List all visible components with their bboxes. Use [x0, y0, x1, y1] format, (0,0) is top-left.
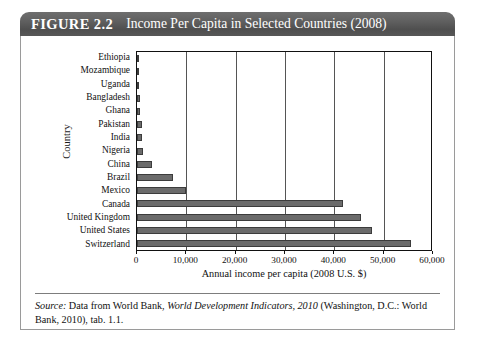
bar-row: [137, 118, 431, 131]
plot-area: [136, 51, 432, 251]
y-axis-label: Brazil: [54, 171, 134, 184]
tick-mark: [136, 251, 137, 254]
tick-mark: [383, 251, 384, 254]
x-axis-tick-label: 30,000: [271, 255, 296, 265]
bar: [137, 174, 173, 181]
y-axis-label: Ghana: [54, 104, 134, 117]
bar-row: [137, 224, 431, 237]
bar-row: [137, 131, 431, 144]
bar: [137, 148, 143, 155]
x-axis-tick-label: 10,000: [173, 255, 198, 265]
source-divider: [35, 293, 440, 294]
y-axis-label: United States: [54, 224, 134, 237]
tick-mark: [333, 251, 334, 254]
y-axis-label: Pakistan: [54, 118, 134, 131]
bar: [137, 108, 140, 115]
bar: [137, 200, 343, 207]
x-axis-ticks: 010,00020,00030,00040,00050,00060,000: [136, 253, 432, 267]
bar-row: [137, 52, 431, 65]
bar-row: [137, 171, 431, 184]
bar: [137, 187, 186, 194]
figure-number-label: FIGURE 2.2: [31, 16, 113, 33]
bar-row: [137, 237, 431, 250]
bar: [137, 121, 142, 128]
y-axis-label: Mozambique: [54, 64, 134, 77]
x-axis-tick-label: 50,000: [370, 255, 395, 265]
bar: [137, 240, 411, 247]
y-axis-label: China: [54, 158, 134, 171]
bar: [137, 227, 372, 234]
bar-row: [137, 197, 431, 210]
bar-series: [137, 52, 431, 250]
bar-row: [137, 105, 431, 118]
bar-row: [137, 144, 431, 157]
y-axis-label: Switzerland: [54, 238, 134, 251]
y-axis-label: India: [54, 131, 134, 144]
x-axis-tick-label: 40,000: [321, 255, 346, 265]
bar-row: [137, 210, 431, 223]
figure-title: Income Per Capita in Selected Countries …: [126, 16, 386, 32]
bar: [137, 82, 139, 89]
x-axis-title: Annual income per capita (2008 U.S. $): [136, 268, 432, 279]
bar: [137, 214, 361, 221]
figure-container: FIGURE 2.2 Income Per Capita in Selected…: [0, 0, 478, 350]
bar: [137, 55, 139, 62]
bar-row: [137, 158, 431, 171]
bar-row: [137, 92, 431, 105]
bar: [137, 134, 142, 141]
bar: [137, 95, 140, 102]
y-axis-category-labels: EthiopiaMozambiqueUgandaBangladeshGhanaP…: [54, 51, 134, 251]
source-text-1: Data from World Bank,: [66, 300, 167, 311]
chart: Country EthiopiaMozambiqueUgandaBanglade…: [20, 40, 455, 285]
bar: [137, 68, 139, 75]
source-note: Source: Data from World Bank, World Deve…: [35, 299, 443, 327]
tick-mark: [284, 251, 285, 254]
source-prefix: Source:: [35, 300, 66, 311]
bar-row: [137, 78, 431, 91]
x-axis-tick-label: 0: [134, 255, 139, 265]
source-publication-title: World Development Indicators, 2010: [167, 300, 318, 311]
y-axis-label: Ethiopia: [54, 51, 134, 64]
bar: [137, 161, 152, 168]
x-axis-tick-label: 60,000: [419, 255, 444, 265]
y-axis-label: Bangladesh: [54, 91, 134, 104]
tick-mark: [432, 251, 433, 254]
y-axis-label: United Kingdom: [54, 211, 134, 224]
bar-row: [137, 65, 431, 78]
bar-row: [137, 184, 431, 197]
y-axis-label: Canada: [54, 198, 134, 211]
figure-header-bar: FIGURE 2.2 Income Per Capita in Selected…: [20, 12, 455, 36]
tick-mark: [235, 251, 236, 254]
x-axis-tick-label: 20,000: [222, 255, 247, 265]
tick-mark: [185, 251, 186, 254]
y-axis-label: Nigeria: [54, 144, 134, 157]
y-axis-label: Uganda: [54, 78, 134, 91]
y-axis-label: Mexico: [54, 184, 134, 197]
